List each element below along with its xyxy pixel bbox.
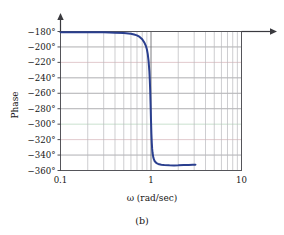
y-tick-label: −320° — [28, 135, 56, 145]
y-tick-label: −300° — [28, 119, 56, 129]
y-tick-label: −280° — [28, 104, 56, 114]
x-tick-label: 1 — [148, 175, 153, 185]
x-axis-label: ω (rad/sec) — [127, 193, 178, 203]
y-tick-label: −220° — [28, 57, 56, 67]
y-tick-label: −200° — [28, 42, 56, 52]
x-tick-label: 10 — [236, 175, 247, 185]
y-tick-label: −240° — [28, 73, 56, 83]
phase-plot-svg: −180°−200°−220°−240°−260°−280°−300°−320°… — [0, 0, 284, 235]
y-axis-label: Phase — [10, 91, 20, 118]
y-tick-labels: −180°−200°−220°−240°−260°−280°−300°−320°… — [28, 27, 61, 176]
y-tick-label: −260° — [28, 88, 56, 98]
y-tick-label: −340° — [28, 150, 56, 160]
x-tick-labels: 0.1110 — [54, 175, 247, 185]
y-tick-label: −180° — [28, 27, 56, 37]
figure-caption: (b) — [135, 215, 149, 226]
y-tick-label: −360° — [28, 166, 56, 176]
phase-curve-path — [61, 32, 196, 165]
bode-phase-figure: −180°−200°−220°−240°−260°−280°−300°−320°… — [0, 0, 284, 235]
x-tick-label: 0.1 — [54, 175, 68, 185]
phase-curve — [61, 32, 196, 165]
